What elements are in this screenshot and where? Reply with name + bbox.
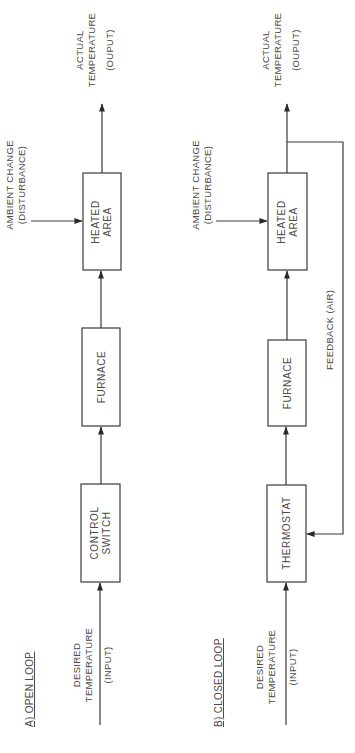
svg-text:ACTUAL: ACTUAL xyxy=(74,30,85,69)
svg-text:DESIRED: DESIRED xyxy=(254,645,265,689)
svg-text:(DISTURBANCE): (DISTURBANCE) xyxy=(202,146,213,224)
svg-text:ACTUAL: ACTUAL xyxy=(260,30,271,69)
heated-area-block: HEATED AREA xyxy=(268,173,307,270)
svg-text:(DISTURBANCE): (DISTURBANCE) xyxy=(16,146,27,224)
closed-loop-diagram: B) CLOSED LOOP DESIRED TEMPERATURE (INPU… xyxy=(190,13,343,727)
svg-text:CONTROL: CONTROL xyxy=(89,506,100,559)
svg-text:AREA: AREA xyxy=(288,207,299,237)
open-loop-input-label: DESIRED TEMPERATURE (INPUT) xyxy=(71,628,113,702)
svg-text:DESIRED: DESIRED xyxy=(71,643,82,687)
svg-text:THERMOSTAT: THERMOSTAT xyxy=(281,496,292,569)
svg-text:HEATED: HEATED xyxy=(276,200,287,243)
svg-text:FURNACE: FURNACE xyxy=(282,357,293,410)
furnace-block: FURNACE xyxy=(82,328,120,426)
closed-loop-disturbance-label: AMBIENT CHANGE (DISTURBANCE) xyxy=(190,140,213,230)
open-loop-output-label: ACTUAL TEMPERATURE (OUPUT) xyxy=(74,13,115,87)
furnace-block: FURNACE xyxy=(268,340,306,426)
svg-text:AREA: AREA xyxy=(102,207,113,237)
control-switch-block: CONTROL SWITCH xyxy=(81,484,120,582)
svg-text:HEATED: HEATED xyxy=(90,200,101,243)
heated-area-block: HEATED AREA xyxy=(83,173,121,270)
svg-text:SWITCH: SWITCH xyxy=(101,511,112,554)
svg-text:(OUPUT): (OUPUT) xyxy=(104,29,115,71)
open-loop-diagram: A) OPEN LOOP DESIRED TEMPERATURE (INPUT)… xyxy=(4,13,121,727)
svg-text:FURNACE: FURNACE xyxy=(96,351,107,404)
closed-loop-input-label: DESIRED TEMPERATURE (INPUT) xyxy=(254,630,298,704)
open-loop-title: A) OPEN LOOP xyxy=(24,652,35,727)
svg-text:AMBIENT CHANGE: AMBIENT CHANGE xyxy=(190,140,201,230)
svg-text:TEMPERATURE: TEMPERATURE xyxy=(272,13,283,87)
svg-text:(OUPUT): (OUPUT) xyxy=(290,29,301,71)
thermostat-block: THERMOSTAT xyxy=(267,485,306,582)
svg-text:TEMPERATURE: TEMPERATURE xyxy=(266,630,277,704)
svg-text:TEMPERATURE: TEMPERATURE xyxy=(83,628,94,702)
feedback-label: FEEDBACK (AIR) xyxy=(324,290,335,370)
svg-text:AMBIENT CHANGE: AMBIENT CHANGE xyxy=(4,140,15,230)
svg-text:(INPUT): (INPUT) xyxy=(287,649,298,686)
closed-loop-title: B) CLOSED LOOP xyxy=(213,638,224,727)
closed-loop-output-label: ACTUAL TEMPERATURE (OUPUT) xyxy=(260,13,301,87)
control-loop-diagram: A) OPEN LOOP DESIRED TEMPERATURE (INPUT)… xyxy=(0,0,355,753)
svg-text:(INPUT): (INPUT) xyxy=(102,647,113,684)
open-loop-disturbance-label: AMBIENT CHANGE (DISTURBANCE) xyxy=(4,140,27,230)
svg-text:TEMPERATURE: TEMPERATURE xyxy=(86,13,97,87)
